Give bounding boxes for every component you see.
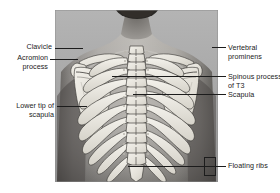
label-clavicle: Clavicle <box>0 42 52 51</box>
label-acromion-line1: Acromion <box>0 53 48 62</box>
label-floating-ribs: Floating ribs <box>228 161 268 170</box>
floating-ribs-highlight-box <box>204 157 216 176</box>
leader-line-lower-tip-of-scapula <box>57 106 87 107</box>
label-acromion-process: Acromion process <box>0 53 48 71</box>
label-spinous-line2: of T3 <box>228 81 280 90</box>
leader-line-spinous-process-t3 <box>112 76 226 77</box>
anatomy-figure: Clavicle Acromion process Lower tip of s… <box>0 0 280 193</box>
leader-line-vertebral-prominens <box>212 47 226 48</box>
leader-line-acromion-process <box>50 59 78 60</box>
leader-line-scapula <box>133 94 226 95</box>
label-vertebral-line1: Vertebral <box>228 43 262 52</box>
label-vertebral-line2: prominens <box>228 52 262 61</box>
label-lower-tip-line1: Lower tip of <box>0 101 54 110</box>
label-vertebral-prominens: Vertebral prominens <box>228 43 262 61</box>
label-spinous-process-of-t3: Spinous process of T3 <box>228 72 280 90</box>
label-lower-tip-line2: scapula <box>0 110 54 119</box>
label-acromion-line2: process <box>0 62 48 71</box>
label-spinous-line1: Spinous process <box>228 72 280 81</box>
label-lower-tip-of-scapula: Lower tip of scapula <box>0 101 54 119</box>
label-scapula: Scapula <box>228 90 254 99</box>
back-anatomy-photo <box>55 10 218 182</box>
leader-line-clavicle <box>55 48 83 49</box>
